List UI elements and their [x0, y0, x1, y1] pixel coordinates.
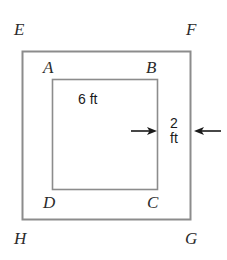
vertex-label-a: A	[43, 59, 53, 76]
vertex-label-g: G	[185, 230, 197, 247]
vertex-label-c: C	[147, 194, 158, 211]
dimension-arrow-right	[194, 127, 221, 135]
inner-square-abcd	[53, 80, 158, 190]
dimension-label-inner-side: 6 ft	[78, 92, 97, 107]
vertex-label-h: H	[14, 230, 26, 247]
vertex-label-f: F	[186, 21, 196, 38]
geometry-figure: E F G H A B C D 6 ft 2 ft	[0, 0, 227, 260]
dimension-label-border-width: 2 ft	[163, 116, 185, 145]
dimension-arrow-left	[131, 127, 157, 135]
vertex-label-e: E	[14, 21, 24, 38]
figure-canvas	[0, 0, 227, 260]
vertex-label-d: D	[43, 194, 55, 211]
dimension-label-border-width-line2: ft	[170, 130, 178, 146]
dimension-label-border-width-line1: 2	[170, 115, 178, 131]
vertex-label-b: B	[146, 59, 156, 76]
